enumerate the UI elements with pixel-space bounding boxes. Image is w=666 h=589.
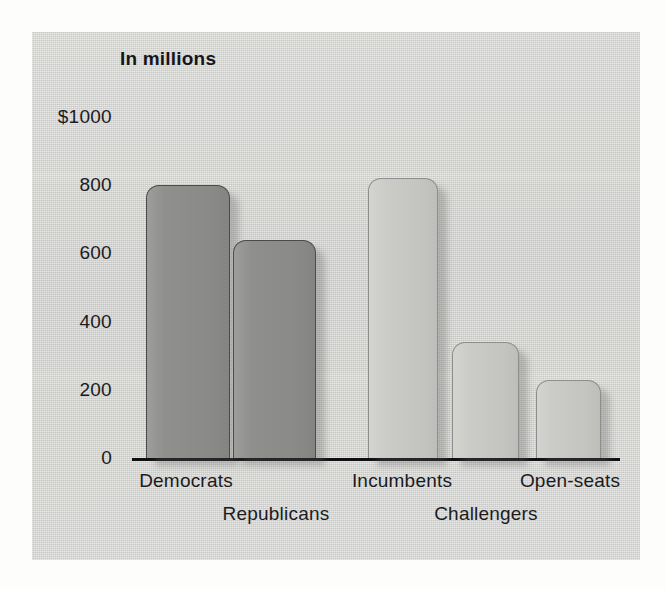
chart-figure: In millions $10008006004002000DemocratsR… — [0, 0, 666, 589]
chart-title: In millions — [120, 48, 216, 70]
chart-panel — [32, 32, 640, 560]
